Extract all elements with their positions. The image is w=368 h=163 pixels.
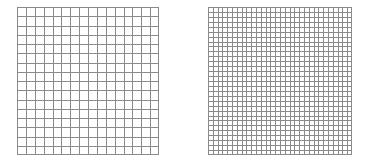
coarse-grid (17, 7, 159, 155)
fine-grid (208, 7, 352, 155)
